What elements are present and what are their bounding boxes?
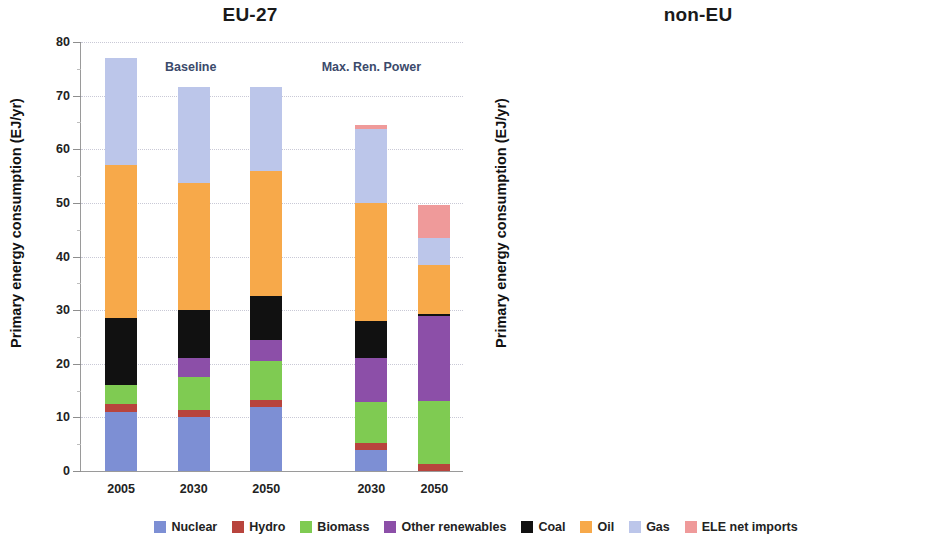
- bar-segment-coal: [250, 296, 282, 340]
- y-axis-tick: [73, 310, 81, 311]
- legend-item-coal[interactable]: Coal: [521, 520, 565, 534]
- x-axis-tick-label: 2050: [252, 482, 280, 496]
- legend-label: Coal: [538, 520, 565, 534]
- bar-segment-other-renewables: [178, 358, 210, 377]
- bar-segment-oil: [178, 183, 210, 310]
- y-axis-tick-label: 30: [56, 303, 70, 317]
- bar-segment-biomass: [105, 385, 137, 404]
- legend-label: Other renewables: [401, 520, 506, 534]
- panel-non-eu: non-EU Primary energy consumption (EJ/yr…: [472, 0, 952, 512]
- legend-swatch: [521, 521, 533, 533]
- bar-max-ren-power-2050[interactable]: 2050: [418, 205, 450, 471]
- y-axis-minor-tick: [77, 337, 81, 338]
- chart-legend: NuclearHydroBiomassOther renewablesCoalO…: [0, 520, 952, 534]
- legend-label: Biomass: [317, 520, 369, 534]
- legend-item-oil[interactable]: Oil: [580, 520, 614, 534]
- bar-segment-hydro: [418, 464, 450, 471]
- legend-item-hydro[interactable]: Hydro: [232, 520, 285, 534]
- y-axis-tick-label: 60: [56, 142, 70, 156]
- bar-segment-nuclear: [250, 407, 282, 471]
- legend-item-biomass[interactable]: Biomass: [300, 520, 369, 534]
- bar-segment-nuclear: [105, 412, 137, 471]
- legend-label: Hydro: [249, 520, 285, 534]
- y-axis-tick: [73, 364, 81, 365]
- bar-segment-other-renewables: [355, 358, 387, 402]
- y-axis-minor-tick: [77, 230, 81, 231]
- y-axis-minor-tick: [77, 122, 81, 123]
- legend-swatch: [580, 521, 592, 533]
- bar-segment-nuclear: [355, 450, 387, 471]
- bar-segment-nuclear: [178, 417, 210, 471]
- gridline: [81, 42, 463, 43]
- y-axis-tick-label: 80: [56, 35, 70, 49]
- y-axis-tick-label: 10: [56, 410, 70, 424]
- bar-segment-gas: [178, 87, 210, 184]
- legend-item-nuclear[interactable]: Nuclear: [154, 520, 217, 534]
- y-axis-tick-label: 70: [56, 89, 70, 103]
- panel-eu-27: EU-27 Primary energy consumption (EJ/yr)…: [0, 0, 480, 512]
- x-axis-tick-label: 2030: [357, 482, 385, 496]
- bar-segment-other-renewables: [250, 340, 282, 361]
- y-axis-tick: [73, 417, 81, 418]
- bar-segment-ele-net-imports: [418, 205, 450, 238]
- legend-swatch: [384, 521, 396, 533]
- bar-segment-biomass: [178, 377, 210, 410]
- legend-label: Nuclear: [171, 520, 217, 534]
- bar-segment-coal: [178, 310, 210, 358]
- bar-segment-oil: [418, 265, 450, 314]
- scenario-label-baseline: Baseline: [165, 60, 216, 74]
- bar-segment-oil: [355, 203, 387, 321]
- scenario-label-max-ren-power: Max. Ren. Power: [322, 60, 421, 74]
- bar-segment-coal: [355, 321, 387, 359]
- bar-segment-hydro: [250, 400, 282, 407]
- bar-baseline-2030[interactable]: 2030: [178, 87, 210, 471]
- legend-item-other-renewables[interactable]: Other renewables: [384, 520, 506, 534]
- y-axis-minor-tick: [77, 444, 81, 445]
- bar-segment-biomass: [250, 361, 282, 400]
- bar-max-ren-power-2030[interactable]: 2030: [355, 125, 387, 471]
- bar-segment-gas: [250, 87, 282, 171]
- bar-segment-gas: [418, 238, 450, 265]
- legend-label: Oil: [597, 520, 614, 534]
- legend-swatch: [629, 521, 641, 533]
- legend-item-gas[interactable]: Gas: [629, 520, 670, 534]
- bar-segment-gas: [105, 58, 137, 165]
- legend-swatch: [300, 521, 312, 533]
- y-axis-tick-label: 20: [56, 357, 70, 371]
- legend-label: ELE net imports: [702, 520, 798, 534]
- x-axis-tick-label: 2030: [180, 482, 208, 496]
- legend-swatch: [154, 521, 166, 533]
- y-axis-minor-tick: [77, 69, 81, 70]
- y-axis-tick: [73, 149, 81, 150]
- y-axis-minor-tick: [77, 283, 81, 284]
- panel-title-eu-27: EU-27: [10, 4, 490, 26]
- chart-figure: EU-27 Primary energy consumption (EJ/yr)…: [0, 0, 952, 550]
- bar-segment-hydro: [105, 404, 137, 412]
- y-axis-tick-label: 40: [56, 250, 70, 264]
- bar-segment-hydro: [178, 410, 210, 417]
- panel-title-non-eu: non-EU: [458, 4, 938, 26]
- x-axis-tick-label: 2050: [420, 482, 448, 496]
- legend-item-ele-net-imports[interactable]: ELE net imports: [685, 520, 798, 534]
- y-axis-tick: [73, 96, 81, 97]
- bar-segment-biomass: [355, 402, 387, 443]
- y-axis-tick-label: 50: [56, 196, 70, 210]
- bar-baseline-2050[interactable]: 2050: [250, 87, 282, 471]
- x-axis-tick-label: 2005: [107, 482, 135, 496]
- y-axis-tick: [73, 203, 81, 204]
- y-axis-minor-tick: [77, 391, 81, 392]
- y-axis-label-non-eu: Primary energy consumption (EJ/yr): [493, 58, 509, 388]
- bar-segment-oil: [105, 165, 137, 318]
- y-axis-tick: [73, 257, 81, 258]
- plot-area-eu-27: 01020304050607080BaselineMax. Ren. Power…: [80, 42, 463, 472]
- y-axis-tick-label: 0: [63, 464, 70, 478]
- y-axis-label-eu-27: Primary energy consumption (EJ/yr): [8, 58, 24, 388]
- legend-swatch: [685, 521, 697, 533]
- y-axis-minor-tick: [77, 176, 81, 177]
- bar-segment-coal: [105, 318, 137, 385]
- bar-segment-oil: [250, 171, 282, 296]
- bar-segment-biomass: [418, 401, 450, 464]
- legend-label: Gas: [646, 520, 670, 534]
- bar-baseline-2005[interactable]: 2005: [105, 58, 137, 471]
- y-axis-tick: [73, 471, 81, 472]
